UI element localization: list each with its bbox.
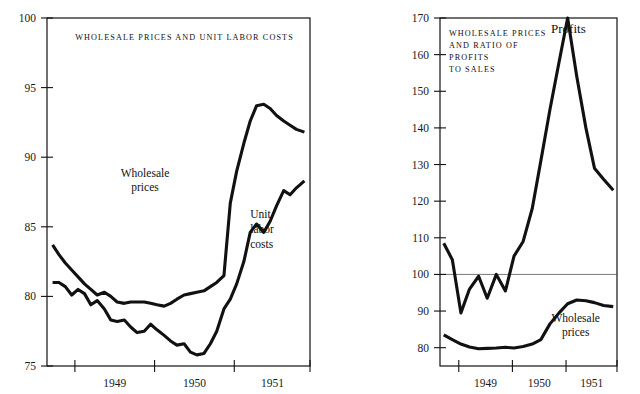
left-y-tick-label: 75 — [25, 360, 37, 372]
left-x-tick-label: 1950 — [183, 377, 206, 389]
left-chart-title: WHOLESALE PRICES AND UNIT LABOR COSTS — [75, 33, 294, 42]
left-y-tick-label: 90 — [25, 151, 37, 163]
right-chart-title-line4: TO SALES — [449, 65, 496, 74]
right-label-wholesale-prices-line1: Wholesale — [551, 312, 600, 324]
left-label-wholesale-prices-line1: Wholesale — [121, 167, 170, 179]
left-y-tick-label: 100 — [19, 12, 37, 24]
right-chart-title-line3: PROFITS — [449, 53, 489, 62]
right-y-tick-label: 110 — [412, 232, 429, 244]
right-chart-title-line2: AND RATIO OF — [449, 41, 519, 50]
right-series-wholesale-prices — [444, 300, 614, 349]
left-label-unit-labor-costs-line3: costs — [250, 238, 274, 250]
left-label-unit-labor-costs-line1: Unit — [250, 208, 271, 220]
right-y-tick-label: 170 — [412, 12, 430, 24]
right-label-profits: Profits — [551, 21, 586, 36]
right-y-tick-label: 130 — [412, 159, 430, 171]
left-chart-svg: 7580859095100194919501951WHOLESALE PRICE… — [0, 0, 330, 394]
right-y-tick-label: 120 — [412, 195, 430, 207]
left-y-tick-label: 85 — [25, 221, 37, 233]
right-y-tick-label: 100 — [412, 268, 430, 280]
left-label-wholesale-prices-line2: prices — [131, 181, 159, 194]
left-label-unit-labor-costs-line2: labor — [250, 223, 274, 235]
left-series-wholesale-prices — [53, 104, 305, 306]
chart-panel-right: 8090100110120130140150160170194919501951… — [395, 0, 640, 394]
left-series-unit-labor-costs — [53, 181, 305, 355]
right-label-wholesale-prices-line2: prices — [562, 326, 590, 339]
right-chart-title-line1: WHOLESALE PRICES — [449, 29, 546, 38]
right-y-tick-label: 90 — [418, 305, 430, 317]
chart-panel-left: 7580859095100194919501951WHOLESALE PRICE… — [0, 0, 330, 394]
right-y-tick-label: 160 — [412, 49, 430, 61]
right-x-tick-label: 1949 — [474, 377, 497, 389]
right-x-tick-label: 1950 — [528, 377, 551, 389]
right-y-tick-label: 140 — [412, 122, 430, 134]
right-chart-svg: 8090100110120130140150160170194919501951… — [395, 0, 640, 394]
right-series-profits — [444, 18, 614, 313]
left-y-tick-label: 80 — [25, 290, 37, 302]
figure-container: 7580859095100194919501951WHOLESALE PRICE… — [0, 0, 640, 394]
left-x-tick-label: 1949 — [103, 377, 126, 389]
right-y-tick-label: 80 — [418, 342, 430, 354]
left-plot-frame — [47, 18, 310, 366]
left-y-tick-label: 95 — [25, 82, 37, 94]
right-x-tick-label: 1951 — [580, 377, 603, 389]
left-x-tick-label: 1951 — [261, 377, 284, 389]
right-y-tick-label: 150 — [412, 85, 430, 97]
